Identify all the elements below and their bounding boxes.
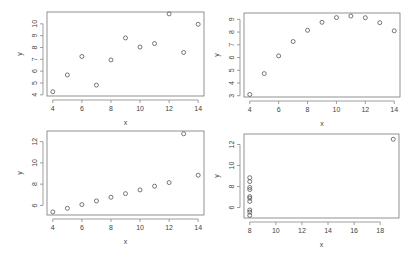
x-tick-label: 12 [165, 224, 173, 231]
x-axis-title: x [124, 238, 128, 245]
y-tick-label: 10 [228, 162, 235, 170]
x-tick-label: 12 [361, 106, 369, 113]
data-point [51, 210, 55, 214]
y-tick-label: 6 [228, 55, 235, 59]
y-axis-title: y [213, 53, 221, 57]
x-axis-title: x [320, 241, 324, 248]
data-point [109, 195, 113, 199]
data-point [196, 22, 200, 26]
x-axis: 468101214x [248, 101, 398, 127]
scatter-plot-grid: 468101214x45678910y468101214x3456789y468… [0, 0, 417, 254]
x-tick-label: 14 [390, 106, 398, 113]
data-point [392, 29, 396, 33]
data-point [182, 50, 186, 54]
y-axis: 45678910y [16, 20, 43, 97]
x-tick-label: 10 [136, 105, 144, 112]
data-point [320, 20, 324, 24]
y-tick-label: 8 [228, 184, 235, 188]
scatter-panel-3: 468101214x681012y [16, 131, 204, 245]
data-points [248, 14, 396, 96]
data-point [262, 72, 266, 76]
data-point [65, 73, 69, 77]
y-axis-title: y [16, 52, 24, 56]
y-tick-label: 6 [31, 69, 38, 73]
data-point [51, 90, 55, 94]
data-point [138, 188, 142, 192]
y-axis-title: y [16, 171, 24, 175]
x-axis-title: x [320, 120, 324, 127]
x-axis: 81012141618x [248, 222, 384, 248]
y-axis: 681012y [16, 138, 43, 208]
y-tick-label: 8 [31, 45, 38, 49]
data-point [349, 14, 353, 18]
data-point [124, 192, 128, 196]
plot-frame [244, 13, 400, 97]
y-tick-label: 6 [228, 205, 235, 209]
x-tick-label: 6 [80, 224, 84, 231]
data-point [378, 21, 382, 25]
y-tick-label: 5 [228, 68, 235, 72]
data-point [94, 83, 98, 87]
data-point [248, 92, 252, 96]
x-tick-label: 14 [194, 105, 202, 112]
data-point [80, 203, 84, 207]
y-tick-label: 9 [31, 34, 38, 38]
data-point [153, 184, 157, 188]
data-point [94, 199, 98, 203]
x-tick-label: 18 [376, 227, 384, 234]
data-point [153, 42, 157, 46]
plot-frame [47, 12, 204, 96]
y-tick-label: 8 [31, 182, 38, 186]
data-point [248, 176, 252, 180]
x-tick-label: 8 [306, 106, 310, 113]
scatter-panel-2: 468101214x3456789y [213, 13, 400, 127]
y-tick-label: 4 [228, 81, 235, 85]
data-point [167, 12, 171, 16]
y-tick-label: 12 [31, 138, 38, 146]
plot-frame [244, 134, 399, 218]
data-point [391, 137, 395, 141]
data-point [182, 132, 186, 136]
y-tick-label: 10 [31, 159, 38, 167]
data-point [306, 28, 310, 32]
y-tick-label: 9 [228, 17, 235, 21]
x-tick-label: 4 [248, 106, 252, 113]
data-point [138, 45, 142, 49]
x-tick-label: 16 [350, 227, 358, 234]
data-points [248, 137, 396, 217]
scatter-panel-4: 81012141618x681012y [213, 134, 399, 248]
y-tick-label: 6 [31, 203, 38, 207]
x-tick-label: 6 [80, 105, 84, 112]
x-tick-label: 4 [51, 105, 55, 112]
x-tick-label: 14 [194, 224, 202, 231]
x-tick-label: 10 [136, 224, 144, 231]
data-points [51, 132, 200, 214]
data-point [65, 206, 69, 210]
data-point [80, 54, 84, 58]
data-point [124, 36, 128, 40]
x-tick-label: 12 [165, 105, 173, 112]
y-tick-label: 7 [31, 57, 38, 61]
data-point [167, 181, 171, 185]
data-point [196, 173, 200, 177]
x-axis: 468101214x [51, 100, 202, 126]
y-tick-label: 12 [228, 141, 235, 149]
y-tick-label: 10 [31, 20, 38, 28]
data-point [109, 58, 113, 62]
x-tick-label: 8 [109, 105, 113, 112]
x-tick-label: 10 [333, 106, 341, 113]
x-tick-label: 6 [277, 106, 281, 113]
y-axis-title: y [213, 174, 221, 178]
data-points [51, 12, 200, 94]
x-tick-label: 4 [51, 224, 55, 231]
data-point [277, 54, 281, 58]
x-tick-label: 14 [324, 227, 332, 234]
data-point [291, 40, 295, 44]
data-point [334, 16, 338, 20]
y-axis: 681012y [213, 141, 240, 210]
y-tick-label: 5 [31, 81, 38, 85]
y-tick-label: 4 [31, 93, 38, 97]
data-point [363, 16, 367, 20]
scatter-panel-1: 468101214x45678910y [16, 12, 204, 126]
y-axis: 3456789y [213, 17, 240, 97]
